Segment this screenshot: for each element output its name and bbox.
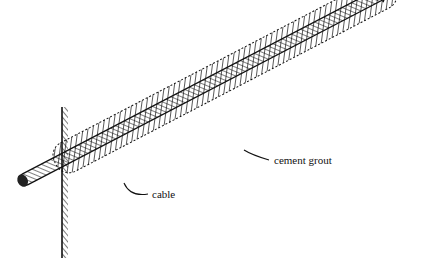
diagram-canvas: cement grout cable (0, 0, 428, 276)
anchor-drawing (0, 0, 428, 276)
cable-leader (124, 183, 148, 195)
cable-label: cable (152, 188, 175, 200)
grout-leader (244, 150, 269, 160)
grout-body (11, 0, 402, 197)
grout-label: cement grout (274, 154, 332, 166)
wall (62, 107, 68, 258)
